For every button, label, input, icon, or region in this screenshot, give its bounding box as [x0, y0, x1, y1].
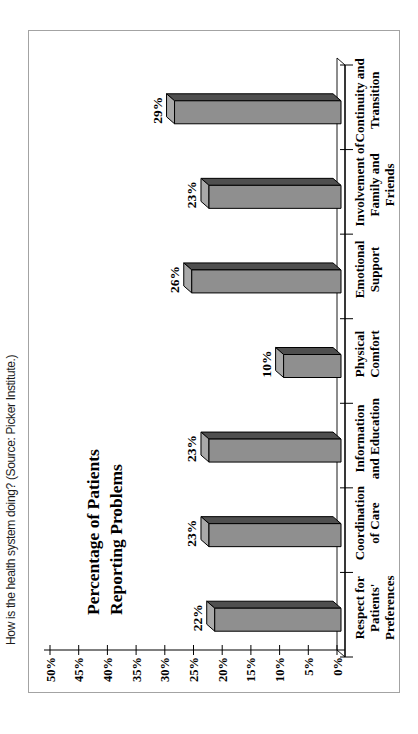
bar-group — [276, 348, 341, 378]
bar-value-label: 26% — [167, 266, 182, 293]
bar-value-label: 29% — [150, 97, 165, 124]
category-label-line: Comfort — [367, 330, 382, 378]
bar-group — [201, 178, 341, 208]
bar-value-label: 22% — [190, 604, 205, 631]
chart-title: Percentage of Patients Reporting Problem… — [82, 449, 128, 615]
value-tick-label: 40% — [101, 657, 115, 682]
bar-value-label: 10% — [259, 351, 274, 378]
bar-side-face — [167, 94, 341, 101]
category-label-line: Emotional — [352, 240, 367, 298]
bar-side-face — [201, 432, 341, 439]
category-label-line: Transition — [367, 71, 382, 129]
category-label-line: Respect for — [352, 576, 367, 639]
bar-value-label: 23% — [184, 181, 199, 208]
value-tick-label: 15% — [244, 657, 258, 682]
bar-group — [207, 601, 341, 631]
bar-value-label: 23% — [184, 435, 199, 462]
bar-side-face — [201, 517, 341, 524]
chart-title-line1: Percentage of Patients — [82, 449, 105, 615]
bar-front-face — [209, 524, 341, 547]
value-tick-label: 50% — [44, 657, 58, 682]
bar-group — [201, 432, 341, 462]
bar-side-face — [201, 178, 341, 185]
category-label-line: Family and — [367, 152, 382, 216]
category-label-line: Preferences — [382, 575, 397, 639]
bar-side-face — [184, 263, 341, 270]
category-label-line: Continuity and — [352, 57, 367, 142]
category-label-line: Support — [367, 246, 382, 292]
bar-front-face — [192, 270, 341, 293]
chart-svg: 22%23%23%10%26%23%29%0%5%10%15%20%25%30%… — [0, 0, 418, 734]
value-tick-label: 20% — [216, 657, 230, 682]
bar-front-face — [284, 355, 341, 378]
bar-front-face — [215, 608, 341, 631]
rotated-canvas: How is the health system doing? (Source:… — [0, 0, 418, 734]
value-tick-label: 5% — [302, 657, 316, 676]
value-tick-label: 10% — [273, 657, 287, 682]
category-label-line: and Education — [367, 397, 382, 479]
page: How is the health system doing? (Source:… — [0, 0, 418, 734]
bar-group — [167, 94, 341, 124]
category-label-line: Coordination — [352, 485, 367, 560]
bar-side-face — [276, 348, 341, 355]
value-tick-label: 35% — [130, 657, 144, 682]
value-tick-label: 30% — [158, 657, 172, 682]
value-tick-label: 0% — [331, 657, 345, 676]
value-tick-label: 45% — [72, 657, 86, 682]
bar-side-face — [207, 601, 341, 608]
bar-group — [184, 263, 341, 293]
bar-front-face — [209, 439, 341, 462]
value-tick-label: 25% — [187, 657, 201, 682]
bar-front-face — [209, 185, 341, 208]
category-label-line: of Care — [367, 502, 382, 544]
category-label-line: Information — [352, 404, 367, 473]
category-label-line: Patients' — [367, 584, 382, 632]
chart-title-line2: Reporting Problems — [105, 449, 128, 615]
category-label-line: Physical — [352, 331, 367, 378]
bar-value-label: 23% — [184, 520, 199, 547]
category-label-line: Involvement of — [352, 142, 367, 226]
category-label-line: Friends — [382, 164, 397, 207]
bar-group — [201, 517, 341, 547]
bar-front-face — [175, 101, 341, 124]
